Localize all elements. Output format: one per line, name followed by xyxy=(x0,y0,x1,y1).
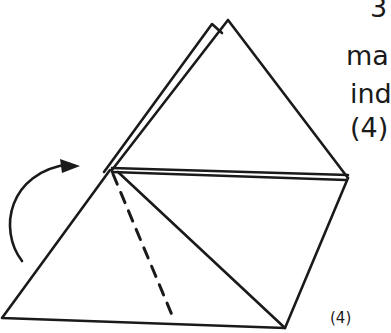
back-layer-edge xyxy=(104,24,222,172)
inner-diagonal xyxy=(118,172,285,328)
rotation-arrow-curve xyxy=(10,164,70,261)
upper-triangle xyxy=(112,20,348,178)
side-text-line3: ind xyxy=(350,80,391,107)
arrowhead-icon xyxy=(60,159,80,173)
step-label: (4) xyxy=(330,311,351,326)
side-text-line2: ma xyxy=(346,42,389,69)
fold-diagram xyxy=(0,0,391,333)
side-text-line1: 3 xyxy=(370,0,387,21)
side-text-line4: (4) xyxy=(350,114,388,141)
lower-left-edge xyxy=(2,170,348,328)
